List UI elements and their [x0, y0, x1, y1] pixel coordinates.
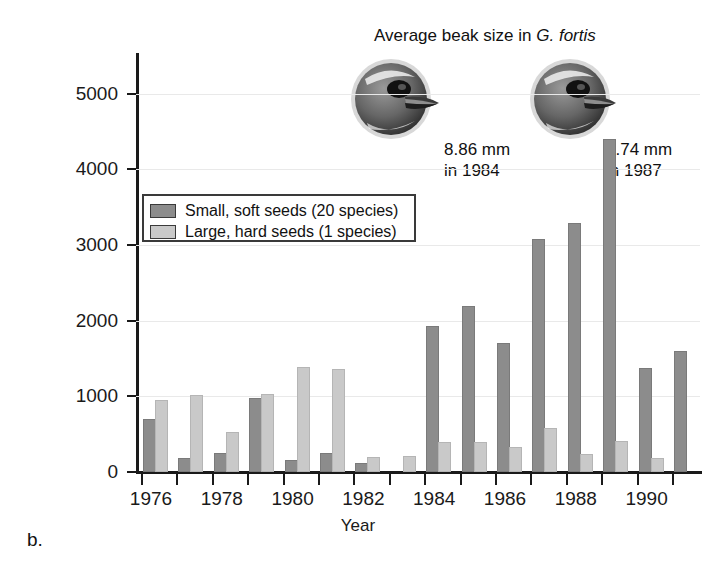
- gridline-5000: [136, 94, 700, 95]
- bar-1991-small-soft: [674, 351, 687, 473]
- x-tick-label-1990: 1990: [625, 489, 667, 508]
- legend-swatch-icon-small: [150, 204, 176, 218]
- x-tick-1991: [672, 474, 674, 485]
- y-tick-3000: [127, 244, 136, 246]
- bar-1976-large-hard: [155, 400, 168, 472]
- x-tick-1989: [601, 474, 603, 485]
- y-tick-2000: [127, 320, 136, 322]
- bar-1985-large-hard: [474, 442, 487, 472]
- y-tick-label-1000: 1000: [76, 386, 118, 405]
- plot-area: 010002000300040005000: [136, 56, 700, 472]
- legend-label-small: Small, soft seeds (20 species): [185, 203, 398, 219]
- bar-1987-large-hard: [544, 428, 557, 472]
- y-tick-4000: [127, 168, 136, 170]
- x-tick-label-1986: 1986: [484, 489, 526, 508]
- bar-1981-large-hard: [332, 369, 345, 472]
- beak-title-prefix: Average beak size in: [374, 26, 536, 45]
- x-tick-label-1976: 1976: [130, 489, 172, 508]
- y-tick-label-2000: 2000: [76, 311, 118, 330]
- x-tick-1978: [212, 474, 214, 485]
- legend: Small, soft seeds (20 species) Large, ha…: [142, 194, 416, 242]
- bar-1989-large-hard: [615, 441, 628, 472]
- x-axis-title: Year: [0, 516, 716, 536]
- beak-title-species: G. fortis: [536, 26, 596, 45]
- x-tick-1981: [318, 474, 320, 485]
- x-tick-label-1980: 1980: [271, 489, 313, 508]
- bar-1982-large-hard: [367, 457, 380, 472]
- x-tick-1980: [283, 474, 285, 485]
- x-tick-1976: [141, 474, 143, 485]
- x-tick-label-1978: 1978: [201, 489, 243, 508]
- x-tick-label-1984: 1984: [413, 489, 455, 508]
- legend-label-large: Large, hard seeds (1 species): [185, 224, 397, 240]
- bar-1990-large-hard: [651, 458, 664, 472]
- bar-1990-small-soft: [639, 368, 652, 472]
- x-tick-label-1988: 1988: [555, 489, 597, 508]
- bar-1978-large-hard: [226, 432, 239, 472]
- bar-1980-large-hard: [297, 367, 310, 472]
- x-tick-1983: [389, 474, 391, 485]
- y-tick-1000: [127, 395, 136, 397]
- x-tick-1977: [176, 474, 178, 485]
- x-tick-1990: [637, 474, 639, 485]
- x-tick-1988: [566, 474, 568, 485]
- x-tick-1982: [353, 474, 355, 485]
- y-tick-0: [127, 471, 136, 473]
- bar-1983-large-hard: [403, 456, 416, 472]
- bar-1988-small-soft: [568, 223, 581, 472]
- x-tick-1986: [495, 474, 497, 485]
- bar-1989-small-soft: [603, 139, 616, 472]
- figure-panel-b: Average beak size in G. fortis 8.86 mm i…: [0, 0, 716, 567]
- x-tick-1987: [530, 474, 532, 485]
- bar-1988-large-hard: [580, 454, 593, 472]
- y-tick-label-3000: 3000: [76, 235, 118, 254]
- panel-label: b.: [27, 529, 43, 551]
- bar-1986-large-hard: [509, 447, 522, 472]
- x-tick-label-1982: 1982: [342, 489, 384, 508]
- y-tick-5000: [127, 93, 136, 95]
- beak-annotation-title: Average beak size in G. fortis: [374, 26, 596, 46]
- y-tick-label-4000: 4000: [76, 159, 118, 178]
- legend-item-small-soft-seeds: Small, soft seeds (20 species): [150, 200, 408, 221]
- bar-1984-large-hard: [438, 442, 451, 472]
- y-tick-label-0: 0: [107, 462, 118, 481]
- legend-swatch-icon-large: [150, 225, 176, 239]
- x-tick-1984: [424, 474, 426, 485]
- y-tick-label-5000: 5000: [76, 84, 118, 103]
- bar-1979-large-hard: [261, 394, 274, 472]
- x-tick-1979: [247, 474, 249, 485]
- x-tick-1985: [460, 474, 462, 485]
- bar-1977-large-hard: [190, 395, 203, 472]
- legend-item-large-hard-seeds: Large, hard seeds (1 species): [150, 221, 408, 242]
